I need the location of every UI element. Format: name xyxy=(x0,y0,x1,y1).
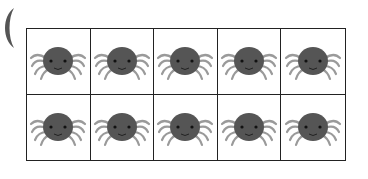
spider-icon xyxy=(29,38,87,84)
spider-icon xyxy=(220,104,278,150)
frame-cell xyxy=(281,95,345,161)
spider-icon xyxy=(284,104,342,150)
frame-cell xyxy=(91,29,155,95)
frame-cell xyxy=(218,95,282,161)
frame-cell xyxy=(281,29,345,95)
frame-cell xyxy=(27,95,91,161)
spider-icon xyxy=(29,104,87,150)
spider-icon xyxy=(93,104,151,150)
frame-cell xyxy=(218,29,282,95)
spider-icon xyxy=(93,38,151,84)
spider-icon xyxy=(156,104,214,150)
frame-cell xyxy=(27,29,91,95)
spider-icon xyxy=(284,38,342,84)
crescent-icon xyxy=(0,6,16,50)
frame-cell xyxy=(91,95,155,161)
ten-frame xyxy=(26,28,346,161)
frame-cell xyxy=(154,29,218,95)
frame-cell xyxy=(154,95,218,161)
spider-icon xyxy=(156,38,214,84)
spider-icon xyxy=(220,38,278,84)
